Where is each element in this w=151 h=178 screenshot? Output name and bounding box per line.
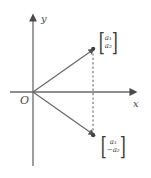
vector-a-reflected-label: [ a₁ −a₂ ]	[99, 135, 127, 157]
vector-a-label: [ a₁ a₂ ]	[97, 31, 120, 53]
vector-reflection-figure: y x O [ a₁ a₂ ] [ a₁ −a₂ ]	[0, 0, 151, 178]
vector-a-reflected-component-1: a₁	[110, 139, 117, 146]
bracket-right-icon: ]	[119, 135, 125, 157]
bracket-left-icon: [	[101, 135, 107, 157]
vector-a-components: a₁ a₂	[105, 35, 112, 50]
vector-a-arrow	[33, 52, 91, 93]
bracket-left-icon: [	[99, 31, 105, 53]
y-axis-label: y	[41, 14, 47, 24]
origin-label: O	[20, 95, 29, 106]
vector-a-reflected-components: a₁ −a₂	[107, 139, 120, 154]
vector-a-component-1: a₁	[105, 35, 112, 42]
vector-a-reflected-endpoint-dot	[91, 133, 95, 137]
x-axis-label: x	[133, 99, 139, 109]
diagram-canvas	[0, 0, 151, 178]
bracket-right-icon: ]	[112, 31, 118, 53]
vector-a-reflected-component-2: −a₂	[107, 147, 120, 154]
vector-a-reflected-arrow	[33, 92, 91, 133]
vector-a-component-2: a₂	[105, 43, 112, 50]
vector-a-endpoint-dot	[91, 47, 95, 51]
